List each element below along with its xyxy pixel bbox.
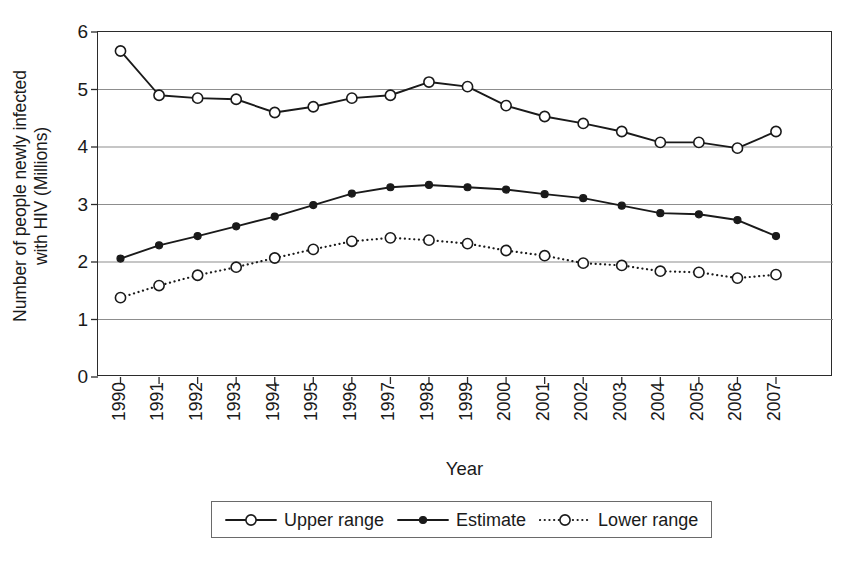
x-axis-tick-label: 2003 (612, 382, 630, 450)
y-axis-title-line-2: with HIV (Millions) (31, 70, 52, 322)
data-point-filled-circle-marker (387, 184, 394, 191)
x-axis-tick-labels: 1990199119921993199419951996199719981999… (97, 382, 832, 454)
data-point-filled-circle-marker (541, 191, 548, 198)
data-point-filled-circle-marker (464, 184, 471, 191)
data-point-open-circle-marker (462, 82, 472, 92)
data-point-filled-circle-marker (310, 202, 317, 209)
open-circle-solid-line-key (225, 513, 277, 527)
x-axis-tick-label-text: 1996 (342, 382, 360, 421)
data-point-open-circle-marker (231, 94, 241, 104)
data-point-filled-circle-marker (425, 181, 432, 188)
data-point-open-circle-marker (115, 46, 125, 56)
data-point-open-circle-marker (617, 126, 627, 136)
legend-item-label: Upper range (284, 511, 384, 529)
x-axis-tick-label-text: 1995 (304, 382, 322, 421)
data-point-open-circle-marker (385, 233, 395, 243)
x-axis-tick-label: 1994 (265, 382, 283, 450)
x-axis-tick-label-text: 1999 (458, 382, 476, 421)
data-point-open-circle-marker (115, 293, 125, 303)
y-axis-tick-label: 2 (66, 252, 88, 271)
data-point-open-circle-marker (501, 245, 511, 255)
legend-key-open-circle-marker (560, 514, 570, 524)
data-point-open-circle-marker (540, 111, 550, 121)
x-axis-tick-label: 1992 (188, 382, 206, 450)
y-axis-tick-label: 6 (66, 22, 88, 41)
data-point-open-circle-marker (231, 262, 241, 272)
data-point-open-circle-marker (385, 90, 395, 100)
data-point-open-circle-marker (655, 266, 665, 276)
data-point-open-circle-marker (270, 107, 280, 117)
data-point-open-circle-marker (154, 280, 164, 290)
x-axis-tick-label: 1999 (458, 382, 476, 450)
data-point-open-circle-marker (462, 239, 472, 249)
data-point-filled-circle-marker (233, 223, 240, 230)
data-point-filled-circle-marker (348, 190, 355, 197)
x-axis-tick-label-text: 2001 (535, 382, 553, 421)
open-circle-dotted-line-key (539, 513, 591, 527)
x-axis-tick-label: 1995 (303, 382, 321, 450)
legend-key-svg (397, 513, 449, 527)
x-axis-tick-label-text: 1991 (149, 382, 167, 421)
x-axis-tick-label-text: 2007 (766, 382, 784, 421)
data-point-open-circle-marker (308, 244, 318, 254)
legend-key-open-circle-marker (246, 514, 256, 524)
legend-key-svg (225, 513, 277, 527)
data-point-open-circle-marker (424, 235, 434, 245)
data-point-open-circle-marker (347, 93, 357, 103)
data-point-filled-circle-marker (271, 213, 278, 220)
data-series (115, 233, 781, 303)
data-series (115, 46, 781, 153)
legend-item: Upper range (225, 511, 384, 529)
x-axis-tick-label-text: 1993 (226, 382, 244, 421)
legend-item: Lower range (539, 511, 698, 529)
data-point-open-circle-marker (540, 251, 550, 261)
x-axis-tick-label: 2005 (689, 382, 707, 450)
series-line (121, 185, 777, 259)
legend-item-label: Lower range (598, 511, 698, 529)
x-axis-tick-label: 2001 (535, 382, 553, 450)
data-point-open-circle-marker (655, 137, 665, 147)
y-axis-tick-label: 0 (66, 367, 88, 386)
series-line (121, 51, 777, 148)
chart-legend: Upper rangeEstimateLower range (211, 501, 712, 538)
data-point-filled-circle-marker (773, 233, 780, 240)
data-point-open-circle-marker (424, 77, 434, 87)
data-point-open-circle-marker (501, 101, 511, 111)
x-axis-tick-label-text: 2005 (689, 382, 707, 421)
data-point-open-circle-marker (578, 258, 588, 268)
data-point-open-circle-marker (694, 137, 704, 147)
data-point-open-circle-marker (193, 270, 203, 280)
data-point-open-circle-marker (154, 90, 164, 100)
x-axis-tick-label-text: 2006 (728, 382, 746, 421)
data-point-open-circle-marker (308, 102, 318, 112)
x-axis-tick-label: 2004 (650, 382, 668, 450)
data-point-open-circle-marker (771, 126, 781, 136)
y-axis-title-line-1: Number of people newly infected (10, 70, 31, 322)
x-axis-tick-label: 2000 (496, 382, 514, 450)
data-point-open-circle-marker (732, 143, 742, 153)
y-axis-title: Number of people newly infected with HIV… (0, 0, 62, 392)
data-point-open-circle-marker (617, 260, 627, 270)
x-axis-tick-label: 2007 (766, 382, 784, 450)
data-series (117, 181, 780, 262)
x-axis-tick-label-text: 1997 (381, 382, 399, 421)
data-point-open-circle-marker (578, 118, 588, 128)
data-point-filled-circle-marker (734, 217, 741, 224)
x-axis-tick-label-text: 2002 (573, 382, 591, 421)
y-axis-tick-label: 3 (66, 194, 88, 213)
data-point-open-circle-marker (347, 236, 357, 246)
plot-svg (98, 32, 833, 377)
data-point-filled-circle-marker (117, 255, 124, 262)
x-axis-tick-label: 1991 (149, 382, 167, 450)
y-axis-tick-label: 4 (66, 137, 88, 156)
x-axis-tick-label: 1997 (380, 382, 398, 450)
x-axis-tick-label: 1996 (342, 382, 360, 450)
x-axis-tick-label: 1990 (111, 382, 129, 450)
y-axis-tick-labels: 0123456 (62, 0, 88, 392)
legend-item: Estimate (397, 511, 526, 529)
x-axis-tick-label-text: 1994 (265, 382, 283, 421)
legend-item-label: Estimate (456, 511, 526, 529)
data-point-filled-circle-marker (503, 186, 510, 193)
data-point-filled-circle-marker (580, 195, 587, 202)
legend-key-filled-circle-marker (420, 516, 427, 523)
